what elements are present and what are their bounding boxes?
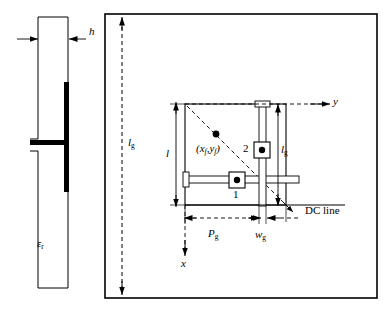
patch-length-label: l: [166, 148, 169, 159]
x-axis-label: x: [181, 258, 186, 269]
patch-metal-strip: [64, 82, 69, 192]
feed-point-coordinates-label: (xf,yf): [196, 143, 220, 154]
patch-diagonal-arrow: [283, 202, 293, 212]
gap-width-label: wg: [255, 229, 266, 240]
permittivity-label: εr: [37, 238, 44, 249]
feed-point-dot: [213, 131, 220, 138]
dc-line-label: DC line: [305, 205, 340, 216]
feed-metal-strip: [30, 140, 66, 145]
h-dimension-label: h: [89, 26, 95, 37]
side-view-group: [17, 17, 86, 288]
feed-line-horizontal-terminal: [183, 172, 189, 187]
port-1-label: 1: [233, 189, 239, 200]
y-axis-label: y: [333, 96, 338, 107]
substrate-left-edge-lower: [30, 151, 68, 288]
substrate-left-edge-upper: [30, 17, 38, 139]
substrate-top-edge: [38, 17, 68, 82]
ground-plane-outline: [105, 14, 377, 298]
ground-plane-length-label: lg: [128, 137, 135, 148]
port-2-label: 2: [243, 143, 249, 154]
top-view-group: [105, 14, 377, 298]
port-2-probe-dot: [259, 147, 265, 153]
gap-length-label: lg: [281, 144, 288, 155]
antenna-geometry-figure: h εr lg l lg Pg wg (xf,yf) 1 2 DC line y…: [0, 0, 387, 313]
gap-position-label: Pg: [208, 228, 218, 239]
diagram-canvas: [0, 0, 387, 313]
patch-diagonal-dashed-line: [187, 106, 292, 211]
port-1-probe-dot: [234, 177, 240, 183]
